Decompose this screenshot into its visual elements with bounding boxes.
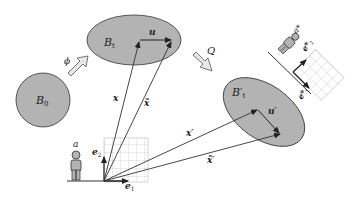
Q-label: Q [207, 45, 215, 56]
vector-x-tilde-prime-label: x̃′ [206, 155, 215, 165]
observer-a-person-icon [71, 151, 81, 180]
Q-map-arrow: Q [193, 45, 215, 71]
body-Bt: Bt u [87, 15, 181, 65]
vector-u-prime-label: u′ [268, 106, 278, 116]
vector-x-prime-label: x′ [185, 128, 194, 138]
observer-a-frame: e1 e2 a [67, 138, 148, 192]
basis-e2-star-label: e*2 [299, 37, 315, 53]
phi-map-arrow: ϕ [64, 56, 88, 76]
body-B0: B0 [16, 73, 70, 127]
vector-x-label: x [112, 93, 119, 103]
phi-label: ϕ [64, 56, 70, 66]
basis-e2-label: e2 [92, 147, 102, 158]
configuration-diagram: B0 ϕ Bt u Q B′t u′ e1 e2 [0, 0, 364, 202]
observer-a-star-label: a* [291, 23, 304, 36]
observer-a-label: a [73, 139, 78, 149]
vector-u-label: u [149, 27, 156, 37]
vector-x-tilde-label: x̃ [143, 98, 150, 108]
basis-e1-label: e1 [125, 181, 135, 192]
